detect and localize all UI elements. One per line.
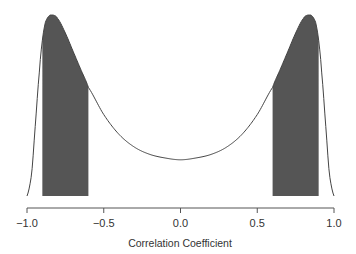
left-shaded-region xyxy=(42,15,88,196)
shaded-tail-regions xyxy=(42,15,318,196)
x-tick-label: 0.0 xyxy=(173,217,188,229)
right-shaded-region xyxy=(273,15,319,196)
density-chart: −1.0−0.50.00.51.0 Correlation Coefficien… xyxy=(0,0,356,254)
x-tick-label: 0.5 xyxy=(250,217,265,229)
x-tick-label: −0.5 xyxy=(93,217,115,229)
x-axis-title: Correlation Coefficient xyxy=(128,237,232,249)
x-axis-ticks: −1.0−0.50.00.51.0 xyxy=(16,208,342,229)
x-tick-label: 1.0 xyxy=(326,217,341,229)
x-tick-label: −1.0 xyxy=(16,217,38,229)
